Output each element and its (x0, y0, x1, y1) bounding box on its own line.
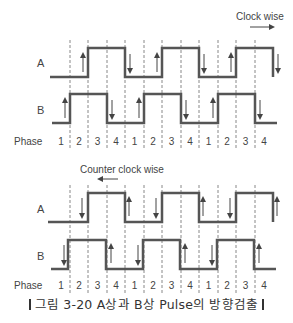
signal-a-label: A (37, 57, 45, 69)
phase-number: 4 (261, 280, 267, 291)
phase-number: 4 (113, 136, 119, 147)
signal-a-label: A (37, 203, 45, 215)
caption-bar-left (29, 299, 31, 310)
phase-number: 4 (187, 136, 193, 147)
counter-clockwise-section: Counter clock wise A B Phase 12341234123… (14, 164, 277, 295)
clockwise-label: Clock wise (236, 11, 284, 22)
phase-number: 3 (95, 280, 101, 291)
phase-number: 4 (187, 280, 193, 291)
phase-number: 2 (150, 136, 156, 147)
phase-number: 3 (169, 136, 175, 147)
phase-number: 1 (206, 136, 212, 147)
phase-number: 2 (76, 136, 82, 147)
phase-label: Phase (14, 280, 43, 291)
phase-number: 1 (132, 280, 138, 291)
phase-number: 1 (206, 280, 212, 291)
phase-number: 4 (113, 280, 119, 291)
phase-number: 3 (243, 280, 249, 291)
signal-b-waveform (51, 240, 276, 269)
signal-a-edge-arrows (82, 198, 277, 216)
counter-clockwise-label: Counter clock wise (80, 164, 164, 175)
figure-caption: 그림 3-20 A상과 B상 Pulse의 방향검출 (0, 294, 293, 313)
phase-number: 2 (76, 280, 82, 291)
phase-number: 2 (224, 136, 230, 147)
signal-b-label: B (37, 250, 44, 262)
phase-number: 1 (132, 136, 138, 147)
phase-number: 1 (58, 280, 64, 291)
phase-label: Phase (14, 136, 43, 147)
phase-number: 3 (243, 136, 249, 147)
phase-number: 1 (58, 136, 64, 147)
signal-b-waveform (52, 94, 277, 123)
phase-number: 2 (150, 280, 156, 291)
encoder-diagram: Clock wise A B Phase 123412341234 Counte… (0, 0, 293, 323)
phase-number: 4 (261, 136, 267, 147)
phase-number: 2 (224, 280, 230, 291)
caption-text: 그림 3-20 A상과 B상 Pulse의 방향검출 (35, 297, 258, 312)
phase-number: 3 (95, 136, 101, 147)
caption-bar-right (262, 299, 264, 310)
signal-b-label: B (37, 104, 44, 116)
phase-number: 3 (169, 280, 175, 291)
clockwise-section: Clock wise A B Phase 123412341234 (14, 11, 284, 150)
